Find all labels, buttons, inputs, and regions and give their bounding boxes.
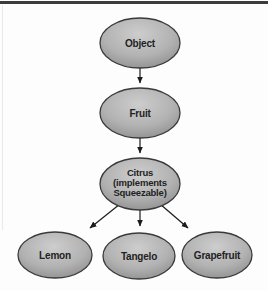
node-object: Object	[100, 18, 180, 68]
left-edge-line	[2, 5, 3, 230]
node-object-label: Object	[125, 38, 156, 49]
node-grapefruit-label: Grapefruit	[194, 250, 241, 261]
hierarchy-diagram: Object Fruit Citrus (implements Squeezab…	[0, 0, 268, 291]
edge-citrus-lemon	[90, 204, 120, 228]
node-tangelo-label: Tangelo	[121, 251, 157, 262]
node-lemon-label: Lemon	[39, 250, 71, 261]
node-citrus: Citrus (implements Squeezable)	[100, 158, 180, 210]
node-fruit: Fruit	[100, 88, 180, 138]
node-tangelo: Tangelo	[103, 233, 175, 279]
edge-citrus-grapefruit	[160, 204, 188, 228]
node-grapefruit: Grapefruit	[182, 232, 252, 278]
node-lemon: Lemon	[18, 232, 92, 278]
top-rule	[0, 1, 268, 4]
node-citrus-label-line3: Squeezable)	[113, 187, 166, 198]
class-hierarchy-figure: Object Fruit Citrus (implements Squeezab…	[0, 0, 268, 291]
node-fruit-label: Fruit	[129, 108, 151, 119]
